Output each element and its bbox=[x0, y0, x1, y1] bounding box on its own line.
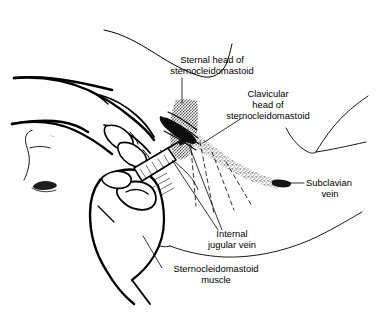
label-clavicular-head-line3: sternocleidomastoid bbox=[226, 110, 309, 121]
label-subclavian-vein-line1: Subclavian bbox=[306, 177, 352, 188]
label-sternal-head-line1: Sternal head of bbox=[180, 54, 244, 65]
label-clavicular-head-line1: Clavicular bbox=[247, 88, 288, 99]
label-sternal-head-line2: sternocleidomastoid bbox=[170, 65, 253, 76]
label-sternal-head: Sternal head of sternocleidomastoid bbox=[170, 54, 253, 76]
label-internal-jugular-line2: jugular vein bbox=[207, 239, 256, 250]
label-scm-muscle-line1: Sternocleidomastoid bbox=[174, 263, 259, 274]
illustration-canvas: Sternal head of sternocleidomastoid Clav… bbox=[0, 0, 387, 312]
lower-hand-thumb-pad bbox=[102, 171, 131, 188]
label-clavicular-head-line2: head of bbox=[252, 99, 284, 110]
label-internal-jugular-line1: Internal bbox=[216, 228, 247, 239]
label-scm-muscle-line2: muscle bbox=[201, 274, 231, 285]
label-subclavian-vein-line2: vein bbox=[321, 188, 338, 199]
medical-illustration-figure: Sternal head of sternocleidomastoid Clav… bbox=[0, 0, 387, 312]
